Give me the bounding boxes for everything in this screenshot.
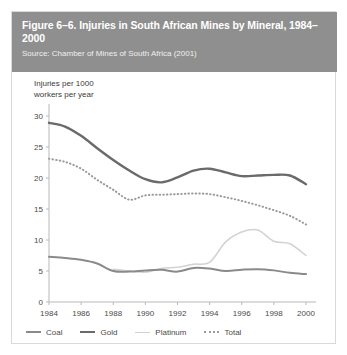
series-line-platinum: [113, 229, 306, 272]
series-line-coal: [49, 257, 306, 274]
x-tick-label: 2000: [297, 309, 315, 318]
x-tick-label: 1998: [265, 309, 283, 318]
legend-label-total: Total: [224, 328, 241, 337]
figure-panel: Figure 6–6. Injuries in South African Mi…: [11, 11, 336, 344]
x-tick-label: 1994: [201, 309, 219, 318]
figure-source: Source: Chamber of Mines of South Africa…: [22, 48, 327, 59]
x-tick-label: 1992: [169, 309, 187, 318]
series-line-total: [49, 159, 306, 225]
axis-lines: [46, 104, 316, 305]
legend-swatch-gold-icon: [80, 331, 95, 333]
chart-legend: Coal Gold Platinum Total: [26, 324, 326, 340]
series-lines: [49, 123, 306, 274]
figure-header: Figure 6–6. Injuries in South African Mi…: [12, 12, 337, 72]
figure-title: Figure 6–6. Injuries in South African Mi…: [22, 19, 327, 44]
y-tick-label: 0: [39, 298, 44, 307]
legend-swatch-total-icon: [204, 331, 219, 333]
legend-swatch-platinum-icon: [135, 332, 150, 333]
y-tick-label: 15: [34, 205, 43, 214]
legend-item-gold: Gold: [80, 328, 117, 337]
y-tick-label: 25: [34, 143, 43, 152]
x-tick-labels: 198419861988199019921994199619982000: [40, 309, 315, 318]
line-chart: 051015202530 198419861988199019921994199…: [12, 72, 337, 345]
x-tick-label: 1984: [40, 309, 58, 318]
legend-label-gold: Gold: [100, 328, 117, 337]
y-tick-label: 10: [34, 236, 43, 245]
y-tick-labels: 051015202530: [34, 112, 43, 307]
legend-item-total: Total: [204, 328, 241, 337]
y-tick-label: 5: [39, 267, 44, 276]
legend-item-coal: Coal: [26, 328, 62, 337]
y-tick-label: 20: [34, 174, 43, 183]
x-tick-label: 1986: [72, 309, 90, 318]
legend-item-platinum: Platinum: [135, 328, 186, 337]
series-line-gold: [49, 123, 306, 184]
plot-area: Injuries per 1000 workers per year 05101…: [12, 72, 337, 345]
legend-label-platinum: Platinum: [155, 328, 186, 337]
x-tick-label: 1990: [136, 309, 154, 318]
legend-swatch-coal-icon: [26, 331, 41, 333]
x-tick-label: 1996: [233, 309, 251, 318]
legend-label-coal: Coal: [46, 328, 62, 337]
x-tick-label: 1988: [104, 309, 122, 318]
y-tick-label: 30: [34, 112, 43, 121]
